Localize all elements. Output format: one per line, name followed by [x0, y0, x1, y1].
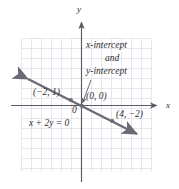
x-axis-label: x [166, 101, 170, 110]
annotation-line-2: and [105, 54, 119, 64]
point-marker [110, 119, 114, 123]
annotation-line-3: y-intercept [86, 67, 127, 77]
point-label-4-neg2: (4, −2) [116, 110, 143, 120]
point-marker [79, 103, 83, 107]
point-label-origin: (0, 0) [86, 92, 107, 102]
origin-label: 0 [72, 106, 77, 116]
graph-figure: x y 0 x-intercept and y-intercept (0, 0)… [0, 0, 179, 189]
axes [11, 22, 157, 182]
annotation-line-1: x-intercept [86, 41, 127, 51]
y-axis-label: y [77, 5, 81, 14]
point-label-neg2-1: (−2, 1) [33, 88, 60, 98]
equation-label: x + 2y = 0 [29, 119, 69, 129]
point-marker [69, 98, 73, 102]
